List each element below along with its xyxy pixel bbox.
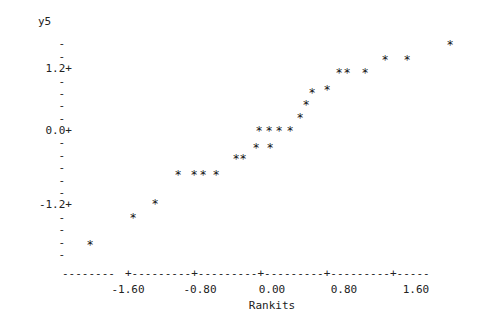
data-point: * — [403, 54, 412, 66]
y-minor-tick: - — [8, 162, 65, 173]
x-axis-title: Rankits — [212, 300, 332, 311]
x-tick-label--1.60: -1.60 — [98, 284, 158, 295]
y-minor-tick: - — [8, 113, 65, 124]
data-point: * — [361, 67, 370, 79]
y-minor-tick: - — [8, 224, 65, 235]
x-axis-lead-dashes: -------- — [62, 268, 115, 279]
data-point: * — [174, 169, 183, 181]
y-minor-tick: - — [8, 100, 65, 111]
y-minor-tick: - — [8, 237, 65, 248]
y-minor-tick: - — [8, 76, 65, 87]
data-point: * — [308, 87, 317, 99]
y-tick-label-1.2: 1.2+ — [8, 63, 72, 74]
data-point: * — [129, 212, 138, 224]
y-minor-tick: - — [8, 137, 65, 148]
data-point: * — [446, 39, 455, 51]
x-tick-label-0.80: 0.80 — [314, 284, 374, 295]
data-point: * — [302, 99, 311, 111]
y-minor-tick: - — [8, 38, 65, 49]
data-point: * — [252, 142, 261, 154]
y-minor-tick: - — [8, 187, 65, 198]
data-point: * — [239, 153, 248, 165]
y-minor-tick: - — [8, 150, 65, 161]
y-minor-tick: - — [8, 249, 65, 260]
plot-area: y5 1.2+ 0.0+ -1.2+ - - - - - - - - - - -… — [0, 0, 477, 324]
x-tick-label-1.60: 1.60 — [386, 284, 446, 295]
x-tick-label-0.00: 0.00 — [242, 284, 302, 295]
rankit-plot-screenshot: y5 1.2+ 0.0+ -1.2+ - - - - - - - - - - -… — [0, 0, 477, 324]
data-point: * — [265, 125, 274, 137]
data-point: * — [255, 125, 264, 137]
y-axis-title: y5 — [38, 16, 51, 27]
y-tick-label--1.2: -1.2+ — [8, 199, 72, 210]
data-point: * — [86, 239, 95, 251]
data-point: * — [190, 169, 199, 181]
data-point: * — [275, 125, 284, 137]
data-point: * — [212, 169, 221, 181]
data-point: * — [266, 142, 275, 154]
data-point: * — [199, 169, 208, 181]
data-point: * — [323, 84, 332, 96]
y-minor-tick: - — [8, 51, 65, 62]
x-axis-line: +---------+---------+---------+---------… — [125, 268, 430, 279]
data-point: * — [381, 54, 390, 66]
x-tick-label--0.80: -0.80 — [170, 284, 230, 295]
data-point: * — [343, 67, 352, 79]
y-minor-tick: - — [8, 212, 65, 223]
y-minor-tick: - — [8, 175, 65, 186]
data-point: * — [286, 125, 295, 137]
y-minor-tick: - — [8, 88, 65, 99]
data-point: * — [296, 112, 305, 124]
y-tick-label-0.0: 0.0+ — [8, 125, 72, 136]
data-point: * — [151, 198, 160, 210]
